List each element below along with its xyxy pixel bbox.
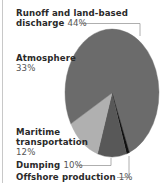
label-maritime-name-2: transportation [16, 137, 88, 147]
label-maritime-pct: 12% [16, 147, 35, 157]
label-runoff: Runoff and land-based discharge 44% [16, 8, 128, 28]
label-runoff-pct: 44% [67, 18, 86, 28]
label-dumping: Dumping 10% [16, 160, 83, 170]
label-runoff-name: Runoff and land-based [16, 8, 128, 18]
label-offshore: Offshore production 1% [16, 172, 133, 182]
label-runoff-name-2: discharge [16, 18, 64, 28]
label-maritime-name: Maritime [16, 127, 60, 137]
label-maritime: Maritime transportation 12% [16, 127, 88, 157]
label-atmosphere-name: Atmosphere [16, 53, 76, 63]
label-atmosphere-pct: 33% [16, 63, 35, 73]
label-offshore-pct: 1% [119, 172, 133, 182]
label-offshore-name: Offshore production [16, 172, 116, 182]
label-atmosphere: Atmosphere 33% [16, 53, 76, 73]
label-dumping-pct: 10% [63, 160, 82, 170]
label-dumping-name: Dumping [16, 160, 60, 170]
